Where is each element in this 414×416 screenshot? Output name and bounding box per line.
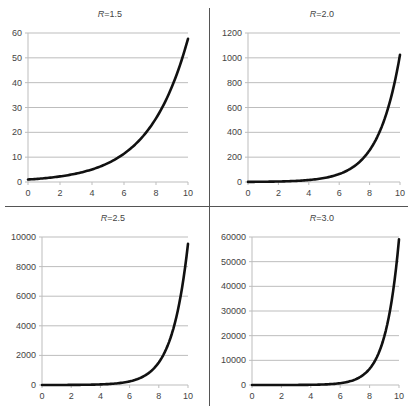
x-tick-label: 2 (57, 188, 62, 198)
chart-panel: R=2.00200400600800100012000246810 (222, 9, 405, 198)
x-tick-label: 10 (395, 188, 405, 198)
y-tick-label: 50 (12, 53, 22, 63)
chart-title: R=3.0 (310, 213, 334, 223)
chart-panel: R=2.502000400060008000100000246810 (11, 213, 193, 401)
x-tick-label: 6 (337, 188, 342, 198)
horizontal-divider (5, 206, 408, 207)
x-tick-label: 8 (367, 391, 372, 401)
x-tick-label: 2 (276, 188, 281, 198)
chart-panel: R=3.001000020000300004000050000600000246… (221, 213, 404, 401)
series-line (42, 244, 188, 385)
y-tick-label: 200 (227, 152, 242, 162)
x-tick-label: 0 (249, 391, 254, 401)
x-tick-label: 0 (25, 188, 30, 198)
y-tick-label: 800 (227, 78, 242, 88)
figure-grid: R=1.501020304050600246810R=2.00200400600… (0, 0, 414, 416)
y-tick-label: 2000 (16, 350, 36, 360)
y-tick-label: 1000 (222, 53, 242, 63)
y-tick-label: 60 (12, 28, 22, 38)
y-tick-label: 400 (227, 127, 242, 137)
series-line (28, 39, 188, 180)
x-tick-label: 10 (183, 391, 193, 401)
x-tick-label: 4 (89, 188, 94, 198)
y-tick-label: 0 (31, 380, 36, 390)
x-tick-label: 6 (127, 391, 132, 401)
x-tick-label: 10 (394, 391, 404, 401)
y-tick-label: 20000 (221, 331, 246, 341)
chart-title: R=2.0 (310, 9, 334, 19)
y-tick-label: 50000 (221, 257, 246, 267)
x-tick-label: 6 (338, 391, 343, 401)
y-tick-label: 30000 (221, 306, 246, 316)
y-tick-label: 10000 (221, 355, 246, 365)
y-tick-label: 30 (12, 103, 22, 113)
chart-title: R=2.5 (101, 213, 125, 223)
x-tick-label: 0 (245, 188, 250, 198)
x-tick-label: 4 (308, 391, 313, 401)
x-tick-label: 8 (153, 188, 158, 198)
y-tick-label: 0 (241, 380, 246, 390)
x-tick-label: 4 (306, 188, 311, 198)
y-tick-label: 1200 (222, 28, 242, 38)
x-tick-label: 4 (98, 391, 103, 401)
y-tick-label: 60000 (221, 232, 246, 242)
series-line (248, 55, 400, 182)
x-tick-label: 0 (39, 391, 44, 401)
x-tick-label: 6 (121, 188, 126, 198)
x-tick-label: 2 (69, 391, 74, 401)
chart-title: R=1.5 (98, 9, 122, 19)
y-tick-label: 40 (12, 78, 22, 88)
vertical-divider (209, 8, 210, 406)
y-tick-label: 0 (17, 177, 22, 187)
x-tick-label: 8 (156, 391, 161, 401)
y-tick-label: 20 (12, 127, 22, 137)
y-tick-label: 600 (227, 103, 242, 113)
x-tick-label: 8 (367, 188, 372, 198)
y-tick-label: 10 (12, 152, 22, 162)
y-tick-label: 8000 (16, 262, 36, 272)
y-tick-label: 0 (237, 177, 242, 187)
plots-canvas: R=1.501020304050600246810R=2.00200400600… (0, 0, 414, 416)
y-tick-label: 4000 (16, 321, 36, 331)
y-tick-label: 6000 (16, 291, 36, 301)
y-tick-label: 10000 (11, 232, 36, 242)
chart-panel: R=1.501020304050600246810 (12, 9, 193, 198)
x-tick-label: 2 (279, 391, 284, 401)
x-tick-label: 10 (183, 188, 193, 198)
y-tick-label: 40000 (221, 281, 246, 291)
